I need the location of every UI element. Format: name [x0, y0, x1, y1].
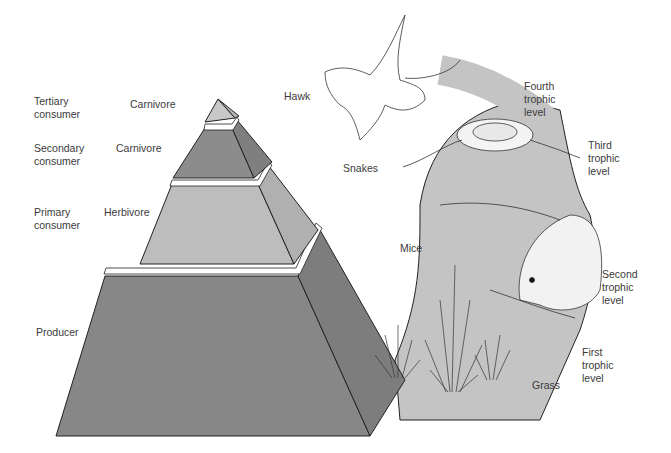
label-line: level [588, 165, 620, 178]
label-line: level [602, 294, 638, 307]
grass-label: Grass [532, 379, 560, 392]
label-line: level [524, 106, 556, 119]
label-line: Fourth [524, 80, 556, 93]
label-line: First [582, 346, 614, 359]
food-pyramid-diagram [0, 0, 671, 453]
snakes-label: Snakes [343, 162, 378, 175]
tertiary-role-label: Carnivore [130, 98, 176, 111]
label-line: trophic [524, 93, 556, 106]
first-trophic-label: First trophic level [582, 346, 614, 385]
hawk-label: Hawk [284, 90, 310, 103]
second-trophic-label: Second trophic level [602, 268, 638, 307]
primary-consumer-label: Primary consumer [34, 206, 80, 232]
label-line: level [582, 372, 614, 385]
label-line: trophic [582, 359, 614, 372]
tertiary-consumer-label: Tertiary consumer [34, 95, 80, 121]
third-trophic-label: Third trophic level [588, 139, 620, 178]
label-line: trophic [588, 152, 620, 165]
label-line: trophic [602, 281, 638, 294]
label-line: Tertiary [34, 95, 80, 108]
secondary-consumer-label: Secondary consumer [34, 142, 84, 168]
fourth-trophic-label: Fourth trophic level [524, 80, 556, 119]
label-line: Third [588, 139, 620, 152]
mice-label: Mice [400, 242, 422, 255]
label-line: Secondary [34, 142, 84, 155]
label-line: consumer [34, 155, 84, 168]
label-line: consumer [34, 219, 80, 232]
producer-label: Producer [36, 326, 79, 339]
label-line: Second [602, 268, 638, 281]
label-line: consumer [34, 108, 80, 121]
label-line: Primary [34, 206, 80, 219]
primary-role-label: Herbivore [104, 206, 150, 219]
secondary-role-label: Carnivore [116, 142, 162, 155]
